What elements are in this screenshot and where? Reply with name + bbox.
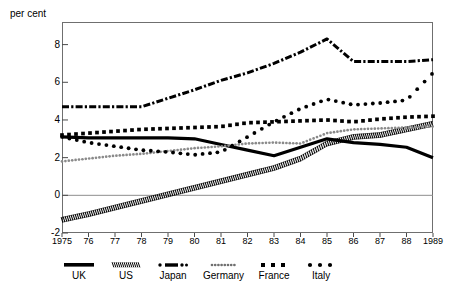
legend-label: Germany (203, 270, 244, 282)
legend-item-uk[interactable]: UK (62, 260, 96, 282)
x-tick-label: 77 (110, 236, 120, 246)
x-tick-label: 84 (295, 236, 305, 246)
x-tick-label: 82 (242, 236, 252, 246)
y-tick-label: 8 (16, 40, 60, 50)
x-tick-label: 85 (322, 236, 332, 246)
legend-swatch-square-dotted-icon (257, 260, 291, 269)
plot-area (62, 22, 433, 233)
legend-item-japan[interactable]: Japan (156, 260, 190, 282)
legend-item-italy[interactable]: Italy (304, 260, 338, 282)
y-tick-label: 0 (16, 190, 60, 200)
legend-label: France (259, 270, 290, 282)
legend-item-france[interactable]: France (257, 260, 291, 282)
legend-swatch-dash-dot-icon (156, 260, 190, 269)
legend-item-germany[interactable]: Germany (203, 260, 244, 282)
y-tick-label: 2 (16, 153, 60, 163)
x-tick-label: 80 (189, 236, 199, 246)
chart-root: per cent 86420-2 19757677787980818283848… (0, 0, 457, 298)
y-tick-label: 4 (16, 115, 60, 125)
legend-label: UK (72, 270, 86, 282)
x-tick-label: 88 (401, 236, 411, 246)
x-tick-label: 76 (83, 236, 93, 246)
x-tick-label: 81 (216, 236, 226, 246)
x-tick-label: 83 (269, 236, 279, 246)
x-tick-label: 1989 (423, 236, 443, 246)
x-tick-label: 78 (136, 236, 146, 246)
legend-label: US (119, 270, 133, 282)
legend-label: Japan (159, 270, 186, 282)
x-axis: 1975767778798081828384858687881989 (0, 236, 457, 254)
legend-swatch-fine-dotted-icon (207, 260, 241, 269)
legend-item-us[interactable]: US (109, 260, 143, 282)
x-tick-label: 87 (375, 236, 385, 246)
x-tick-label: 86 (348, 236, 358, 246)
chart-legend: UKUSJapanGermanyFranceItaly (62, 260, 351, 292)
x-tick-label: 79 (163, 236, 173, 246)
x-tick-label: 1975 (52, 236, 72, 246)
legend-swatch-hatched-icon (109, 260, 143, 269)
legend-swatch-round-dotted-icon (304, 260, 338, 269)
legend-label: Italy (312, 270, 330, 282)
y-tick-label: 6 (16, 77, 60, 87)
legend-swatch-solid-thick-icon (62, 260, 96, 269)
